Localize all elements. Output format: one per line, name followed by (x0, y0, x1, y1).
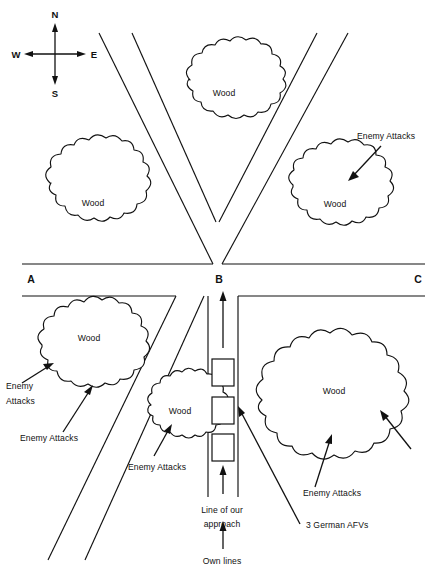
annotation-enemy-attacks-upper-right: Enemy Attacks (357, 131, 415, 141)
wood-label-lower-center-small: Wood (169, 406, 192, 416)
compass-north-arrow-icon (52, 23, 58, 32)
wood-shape-upper-center (186, 37, 285, 119)
compass-label-south: S (52, 88, 58, 99)
compass-south-arrow-icon (52, 76, 58, 85)
compass-west-arrow-icon (24, 51, 33, 57)
tactical-sketch-map: N S E W A B C (0, 0, 439, 585)
annotation-three-german-afvs: 3 German AFVs (306, 520, 368, 530)
wood-shape-upper-right (289, 139, 394, 225)
afv-pointer-head-icon (238, 406, 245, 417)
compass-east-arrow-icon (77, 51, 86, 57)
wood-lower-left: Wood (38, 296, 150, 387)
compass-label-west: W (11, 49, 20, 60)
junction-label-b: B (215, 273, 223, 285)
approach-arrow-mid-head-icon (220, 465, 227, 475)
annotation-enemy-attacks-lower-left-upper-line2: Attacks (6, 396, 35, 406)
compass-label-north: N (52, 9, 59, 20)
tactical-map-root: N S E W A B C (0, 0, 439, 585)
enemy-arrow-lower-left-lower-head-icon (84, 385, 93, 395)
approach-arrow-north-head-icon (220, 291, 227, 301)
annotation-enemy-attacks-lower-right: Enemy Attacks (303, 488, 361, 498)
wood-upper-center: Wood (186, 37, 285, 119)
wood-label-upper-right: Wood (324, 199, 347, 209)
wood-label-lower-right-large: Wood (323, 386, 346, 396)
enemy-arrow-lower-center-shaft (154, 429, 169, 456)
annotation-own-lines: Own lines (203, 556, 242, 566)
afv-marker-3 (212, 434, 234, 461)
afv-marker-1 (212, 359, 234, 386)
enemy-arrow-lower-left-lower-shaft (63, 390, 90, 432)
wood-upper-left: Wood (46, 135, 151, 221)
compass-rose: N S E W (11, 9, 97, 99)
annotation-enemy-attacks-lower-left-upper-line1: Enemy (6, 381, 34, 391)
wood-lower-right-large: Wood (256, 328, 409, 459)
annotation-enemy-attacks-lower-left-lower: Enemy Attacks (20, 433, 78, 443)
annotation-enemy-attacks-lower-center: Enemy Attacks (128, 462, 186, 472)
junction-label-a: A (27, 273, 35, 285)
junction-label-c: C (414, 273, 422, 285)
german-afv-markers (212, 359, 234, 461)
compass-label-east: E (91, 49, 97, 60)
wood-label-upper-center: Wood (213, 88, 236, 98)
wood-label-lower-left: Wood (78, 333, 101, 343)
annotation-line-of-our-approach-line2: approach (204, 519, 241, 529)
afv-marker-2 (212, 397, 234, 424)
annotation-line-of-our-approach-line1: Line of our (201, 505, 243, 515)
wood-label-upper-left: Wood (82, 198, 105, 208)
wood-shape-upper-left (46, 135, 151, 221)
wood-upper-right: Wood (289, 139, 394, 225)
